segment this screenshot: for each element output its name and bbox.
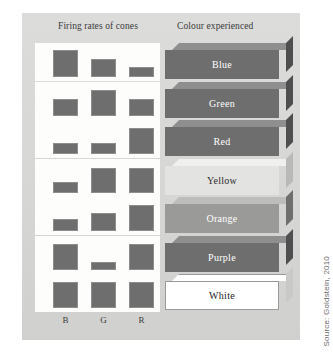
slab-front-face: Blue: [165, 50, 279, 79]
colour-label: Blue: [212, 59, 232, 70]
colour-slab: White: [165, 274, 293, 312]
cone-bars-strip: [35, 82, 160, 120]
cone-bar-r: [129, 168, 154, 193]
slab-top-face: [172, 82, 293, 89]
slab-side-face: [286, 267, 293, 303]
slab-side-face: [286, 36, 293, 72]
slab-top-face: [172, 120, 293, 127]
slab-side-face: [286, 229, 293, 265]
colour-row: Red: [22, 120, 300, 158]
cone-bars-strip: [35, 197, 160, 235]
colour-label: Red: [213, 136, 230, 147]
slab-front-face: White: [165, 281, 279, 310]
slab-side-face: [286, 152, 293, 188]
rows-container: BlueGreenRedYellowOrangePurpleWhite: [22, 43, 300, 313]
colour-row: Blue: [22, 43, 300, 81]
cone-bar-g: [91, 282, 116, 308]
slab-top-face: [172, 197, 293, 204]
colour-slab: Red: [165, 120, 293, 158]
slab-top-face: [172, 43, 293, 50]
source-credit: Source: Goldstein, 2010: [322, 256, 331, 346]
colour-label: White: [209, 290, 235, 301]
header-colour-experienced: Colour experienced: [177, 21, 253, 31]
slab-front-face: Orange: [165, 204, 279, 233]
cone-bar-g: [91, 262, 116, 270]
slab-top-face: [172, 274, 293, 281]
cone-bar-g: [91, 90, 116, 116]
axis-label-r: R: [129, 315, 154, 325]
slab-side-face: [286, 190, 293, 226]
colour-row: Orange: [22, 197, 300, 235]
colour-slab: Purple: [165, 236, 293, 274]
cone-bar-r: [129, 205, 154, 231]
slab-top-face: [172, 159, 293, 166]
colour-slab: Orange: [165, 197, 293, 235]
colour-label: Purple: [208, 252, 236, 263]
column-headers: Firing rates of cones Colour experienced: [22, 21, 300, 37]
cone-bar-b: [53, 99, 78, 116]
slab-front-face: Purple: [165, 243, 279, 272]
colour-label: Yellow: [207, 175, 237, 186]
cone-bars-strip: [35, 159, 160, 197]
cone-bar-b: [53, 143, 78, 154]
cone-bar-b: [53, 50, 78, 77]
colour-slab: Green: [165, 82, 293, 120]
colour-row: White: [22, 274, 300, 312]
slab-front-face: Green: [165, 89, 279, 118]
colour-label: Green: [209, 98, 235, 109]
colour-slab: Yellow: [165, 159, 293, 197]
colour-row: Green: [22, 82, 300, 120]
colour-slab: Blue: [165, 43, 293, 81]
colour-label: Orange: [206, 213, 237, 224]
cone-bar-r: [129, 282, 154, 308]
cone-bars-strip: [35, 236, 160, 274]
cone-bar-g: [91, 168, 116, 193]
cone-bars-strip: [35, 43, 160, 81]
slab-top-face: [172, 236, 293, 243]
cone-bar-b: [53, 219, 78, 231]
cone-firing-rate-figure: Firing rates of cones Colour experienced…: [0, 0, 333, 352]
cone-bar-r: [129, 99, 154, 116]
cone-bar-r: [129, 244, 154, 270]
cone-bars-strip: [35, 120, 160, 158]
slab-front-face: Red: [165, 127, 279, 156]
cone-bar-b: [53, 282, 78, 308]
cone-bar-b: [53, 182, 78, 193]
slab-front-face: Yellow: [165, 166, 279, 195]
cone-bar-b: [53, 244, 78, 270]
header-firing-rates: Firing rates of cones: [58, 21, 138, 31]
cone-axis-labels: B G R: [35, 315, 160, 331]
cone-bar-g: [91, 59, 116, 77]
cone-bar-g: [91, 213, 116, 231]
figure-panel: Firing rates of cones Colour experienced…: [22, 13, 300, 340]
slab-side-face: [286, 75, 293, 111]
cone-bar-r: [129, 128, 154, 154]
axis-label-g: G: [91, 315, 116, 325]
slab-side-face: [286, 113, 293, 149]
axis-label-b: B: [53, 315, 78, 325]
colour-row: Purple: [22, 236, 300, 274]
cone-bar-g: [91, 143, 116, 154]
cone-bar-r: [129, 67, 154, 77]
cone-bars-strip: [35, 274, 160, 312]
colour-row: Yellow: [22, 159, 300, 197]
